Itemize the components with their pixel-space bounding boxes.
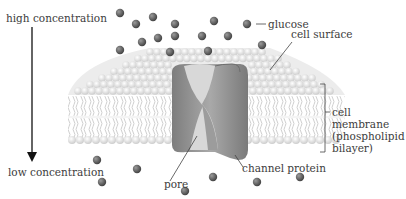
label-channel-protein: channel protein — [242, 162, 326, 174]
label-cell-membrane-2: membrane — [332, 118, 389, 130]
label-cell-membrane-4: bilayer) — [332, 142, 373, 154]
label-cell-membrane-3: (phospholipid — [332, 130, 405, 142]
label-high-concentration: high concentration — [6, 12, 107, 24]
label-cell-membrane-1: cell — [332, 106, 351, 118]
label-low-concentration: low concentration — [8, 166, 104, 178]
label-pore: pore — [164, 178, 188, 190]
concentration-gradient-arrow — [27, 27, 37, 162]
channel-protein — [172, 64, 248, 160]
label-cell-surface: cell surface — [291, 28, 353, 40]
